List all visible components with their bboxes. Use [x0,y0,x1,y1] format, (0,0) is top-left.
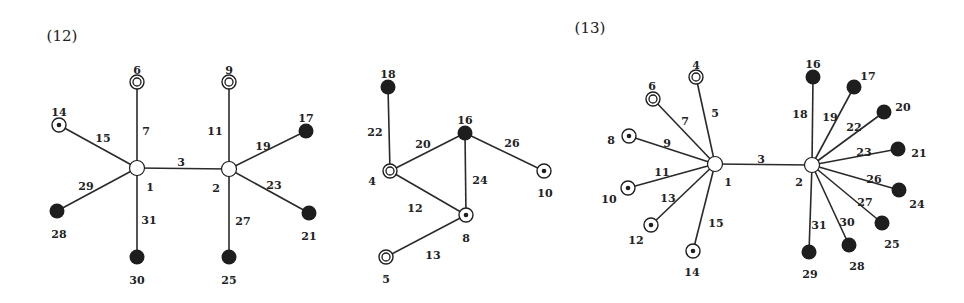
edge-label: 3 [757,153,765,166]
edge-2-21 [812,149,898,165]
node-label: 9 [225,64,233,77]
edge-4-8 [390,171,466,215]
edge-label: 22 [367,126,382,139]
node-dot-icon [459,208,473,222]
graph-diagram-canvas: (12)371115192923312712691417282130252220… [0,0,964,303]
edge-label: 24 [472,174,488,187]
edge-label: 27 [857,196,872,209]
edge-label: 23 [856,146,871,159]
node-double-icon [379,250,393,264]
node-dot-icon [621,181,635,195]
edge-2-28 [812,165,849,245]
node-label: 21 [911,147,926,160]
node-double-icon [222,75,236,89]
node-label: 1 [724,176,732,189]
node-dot-icon [644,218,658,232]
node-label: 10 [537,187,553,200]
edge-label: 22 [846,121,861,134]
node-label: 28 [849,260,865,273]
node-label: 2 [795,176,803,189]
edge-label: 19 [822,111,837,124]
edge-label: 7 [142,125,150,138]
node-label: 24 [909,198,925,211]
edge-label: 30 [839,216,855,229]
node-hub-icon [805,158,820,173]
labels-layer: (12)371115192923312712691417282130252220… [47,19,927,287]
node-label: 4 [368,175,376,188]
node-label: 14 [51,106,67,119]
node-label: 25 [884,238,899,251]
edge-label: 15 [708,217,723,230]
node-filled-icon [875,216,890,231]
node-filled-icon [381,80,396,95]
node-double-icon [130,75,144,89]
node-dot-icon [686,244,700,258]
node-filled-icon [302,206,317,221]
edge-2-29 [809,165,812,252]
node-label: 16 [805,58,821,71]
node-label: 18 [380,68,396,81]
edge-label: 26 [866,173,882,186]
node-filled-icon [891,142,906,157]
node-label: 30 [129,274,145,287]
node-filled-icon [806,70,821,85]
node-label: 4 [692,59,700,72]
figure-title: (13) [575,19,606,37]
edge-label: 20 [415,138,431,151]
edge-label: 3 [177,156,185,169]
edge-label: 11 [207,125,222,138]
edge-1-14 [693,164,715,251]
node-label: 6 [133,64,141,77]
edge-label: 26 [504,137,520,150]
node-label: 17 [860,70,875,83]
node-filled-icon [802,245,817,260]
edge-label: 9 [663,137,671,150]
edge-label: 23 [266,179,281,192]
edge-label: 31 [141,214,156,227]
edge-label: 11 [654,166,669,179]
node-dot-icon [622,129,636,143]
node-label: 28 [51,228,67,241]
node-filled-icon [130,250,145,265]
edge-label: 15 [95,132,110,145]
node-filled-icon [222,250,237,265]
node-dot-icon [52,118,66,132]
node-label: 21 [301,230,316,243]
edge-label: 12 [407,202,422,215]
edge-18-4 [388,87,390,171]
edge-1-4 [696,77,715,164]
node-label: 25 [221,274,236,287]
node-label: 17 [298,112,313,125]
node-double-icon [689,70,703,84]
node-label: 5 [382,273,390,286]
node-filled-icon [50,204,65,219]
node-double-icon [646,92,660,106]
edge-2-24 [812,165,899,190]
node-dot-icon [537,164,551,178]
node-label: 1 [146,181,154,194]
edge-label: 5 [711,107,719,120]
node-label: 29 [802,268,817,281]
figure-title: (12) [47,27,78,45]
node-filled-icon [892,183,907,198]
edge-16-8 [465,133,466,215]
edge-2-16 [812,77,813,165]
node-label: 12 [628,234,643,247]
node-label: 6 [648,80,656,93]
edge-label: 13 [425,249,440,262]
node-filled-icon [877,105,892,120]
node-hub-icon [130,161,145,176]
edge-1-28 [57,168,137,211]
edge-label: 13 [660,192,675,205]
edge-label: 27 [235,215,250,228]
node-label: 14 [684,266,700,279]
node-label: 8 [607,134,615,147]
node-filled-icon [847,80,862,95]
node-hub-icon [708,157,723,172]
node-filled-icon [299,124,314,139]
node-label: 16 [457,114,473,127]
edge-label: 31 [811,219,826,232]
edge-label: 18 [792,108,808,121]
node-filled-icon [458,126,473,141]
edge-label: 7 [681,115,689,128]
